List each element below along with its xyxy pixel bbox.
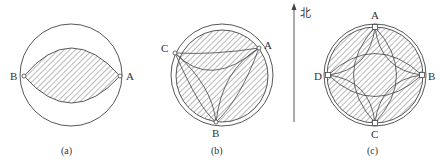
point-a-marker <box>257 46 261 50</box>
figure-a-label-b: B <box>10 71 17 82</box>
figure-b-inner-circle <box>176 30 268 122</box>
figure-c-label-b: B <box>428 71 435 82</box>
figure-b-label-a: A <box>264 40 272 51</box>
figure-c <box>324 24 426 126</box>
figure-a <box>20 24 122 126</box>
point-a-marker <box>373 25 378 30</box>
point-a-marker <box>118 74 122 78</box>
north-arrow <box>292 3 297 122</box>
figure-b-label-b: B <box>212 128 219 139</box>
arrow-head-icon <box>292 3 297 10</box>
point-d-marker <box>326 73 331 78</box>
figure-a-caption: (a) <box>61 145 72 156</box>
point-b-marker <box>214 120 218 124</box>
point-c-marker <box>173 51 177 55</box>
point-b-marker <box>22 74 26 78</box>
figure-b-label-c: C <box>161 43 168 54</box>
point-b-marker <box>420 73 425 78</box>
figure-c-label-d: D <box>314 71 322 82</box>
figure-a-lens <box>24 48 120 103</box>
figure-c-inner-circle <box>327 27 423 123</box>
figure-b-caption: (b) <box>211 145 223 156</box>
north-label: 北 <box>300 8 311 19</box>
diagram-canvas <box>0 0 443 168</box>
figure-c-caption: (c) <box>367 145 378 156</box>
figure-a-label-a: A <box>126 71 134 82</box>
figure-b <box>171 24 273 126</box>
figure-c-label-a: A <box>371 10 379 21</box>
point-c-marker <box>373 121 378 126</box>
figure-c-label-c: C <box>371 129 378 140</box>
